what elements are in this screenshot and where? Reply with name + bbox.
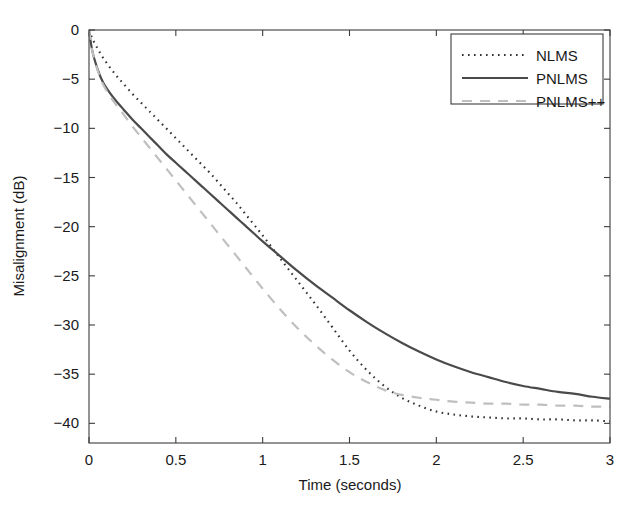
y-axis-tick-labels: 0−5−10−15−20−25−30−35−40 [54, 21, 79, 431]
y-tick-label: −30 [54, 316, 79, 333]
chart-figure: 0−5−10−15−20−25−30−35−40 00.511.522.53 T… [0, 0, 634, 507]
legend-label-pnlmsplusplus: PNLMS++ [536, 93, 605, 110]
x-tick-label: 2 [432, 451, 440, 468]
x-tick-label: 3 [606, 451, 614, 468]
x-tick-label: 2.5 [513, 451, 534, 468]
y-tick-label: −40 [54, 414, 79, 431]
y-tick-label: −10 [54, 119, 79, 136]
y-tick-label: −20 [54, 218, 79, 235]
x-tick-label: 0 [85, 451, 93, 468]
y-tick-label: −15 [54, 169, 79, 186]
y-tick-label: 0 [71, 21, 79, 38]
x-tick-label: 1 [258, 451, 266, 468]
y-tick-label: −25 [54, 267, 79, 284]
y-tick-label: −35 [54, 365, 79, 382]
legend-label-nlms: NLMS [536, 47, 578, 64]
y-axis-title: Misalignment (dB) [10, 176, 27, 297]
chart-legend: NLMSPNLMSPNLMS++ [451, 34, 605, 110]
x-tick-label: 1.5 [339, 451, 360, 468]
y-tick-label: −5 [62, 70, 79, 87]
x-axis-tick-labels: 00.511.522.53 [85, 451, 614, 468]
legend-label-pnlms: PNLMS [536, 70, 588, 87]
x-axis-title: Time (seconds) [299, 476, 402, 493]
x-tick-label: 0.5 [165, 451, 186, 468]
chart-canvas: 0−5−10−15−20−25−30−35−40 00.511.522.53 T… [0, 0, 634, 507]
